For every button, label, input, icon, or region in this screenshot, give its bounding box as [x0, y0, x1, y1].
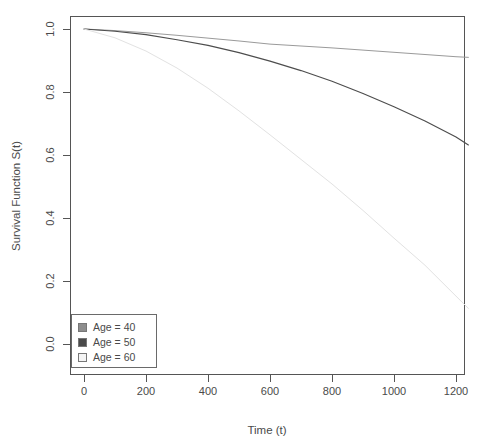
legend-swatch-icon — [78, 338, 87, 347]
y-tick — [63, 218, 70, 219]
x-tick — [332, 375, 333, 382]
y-tick-label: 0.6 — [44, 147, 56, 162]
x-tick-label: 1200 — [444, 385, 468, 397]
curve-age-40 — [84, 29, 468, 57]
legend-item-label: Age = 50 — [93, 337, 135, 348]
y-tick-label: 0.8 — [44, 84, 56, 99]
legend-item-label: Age = 60 — [93, 352, 135, 363]
y-tick — [63, 281, 70, 282]
legend-item: Age = 60 — [78, 350, 156, 365]
x-tick — [146, 375, 147, 382]
survival-function-plot: 020040060080010001200 0.00.20.40.60.81.0… — [0, 0, 479, 446]
x-tick-label: 400 — [199, 385, 217, 397]
legend-item-label: Age = 40 — [93, 322, 135, 333]
x-tick — [208, 375, 209, 382]
y-tick — [63, 155, 70, 156]
legend-swatch-icon — [78, 353, 87, 362]
legend: Age = 40Age = 50Age = 60 — [71, 314, 157, 368]
x-tick — [270, 375, 271, 382]
x-tick-label: 600 — [261, 385, 279, 397]
legend-swatch-icon — [78, 323, 87, 332]
x-axis-title: Time (t) — [247, 424, 286, 436]
y-tick — [63, 29, 70, 30]
y-tick — [63, 344, 70, 345]
y-tick-label: 0.0 — [44, 336, 56, 351]
x-tick-label: 800 — [323, 385, 341, 397]
y-tick-label: 0.4 — [44, 210, 56, 225]
curve-age-50 — [84, 29, 468, 145]
x-tick — [456, 375, 457, 382]
y-tick-label: 0.2 — [44, 273, 56, 288]
x-tick-label: 0 — [81, 385, 87, 397]
x-tick-label: 1000 — [382, 385, 406, 397]
legend-item: Age = 40 — [78, 320, 156, 335]
x-tick — [394, 375, 395, 382]
y-tick — [63, 92, 70, 93]
x-tick — [84, 375, 85, 382]
x-tick-label: 200 — [137, 385, 155, 397]
y-axis-title: Survival Function S(t) — [10, 141, 22, 251]
y-tick-label: 1.0 — [44, 21, 56, 36]
legend-item: Age = 50 — [78, 335, 156, 350]
curve-age-60 — [84, 29, 468, 308]
